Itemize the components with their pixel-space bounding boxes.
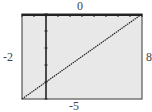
graph-window [0,0,152,112]
